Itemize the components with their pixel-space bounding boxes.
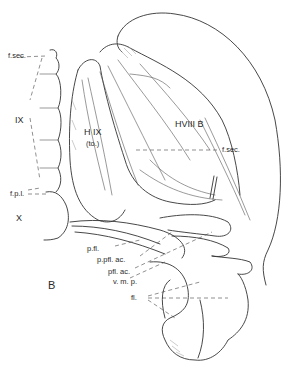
label-f-sec-right: f.sec.	[222, 146, 240, 154]
label-h-ix-sub: (to.)	[86, 140, 99, 148]
vermis-x-outline	[44, 192, 68, 240]
label-ix: IX	[15, 116, 24, 125]
label-x: X	[16, 214, 22, 223]
anatomical-figure: f.sec. IX f.p.l. X H IX (to.) HVIII B f.…	[0, 0, 294, 378]
label-v-m-p: v. m. p.	[113, 278, 137, 286]
label-f-sec-left: f.sec.	[8, 52, 26, 60]
label-pfl-ac: pfl. ac.	[108, 268, 130, 276]
label-p-fl: p.fl.	[87, 245, 99, 253]
label-h-ix: H IX	[84, 128, 102, 137]
flocculus-outline	[150, 262, 248, 361]
label-p-pfl-ac: p.pfl. ac.	[97, 256, 125, 264]
cerebellum-drawing	[0, 0, 294, 378]
label-fl: fl.	[131, 294, 137, 302]
label-hviii-b: HVIII B	[175, 120, 204, 129]
label-f-p-l: f.p.l.	[10, 190, 24, 198]
vermis-ix-outline	[50, 50, 61, 192]
hemisphere-outline	[118, 13, 280, 285]
panel-label: B	[48, 280, 55, 291]
